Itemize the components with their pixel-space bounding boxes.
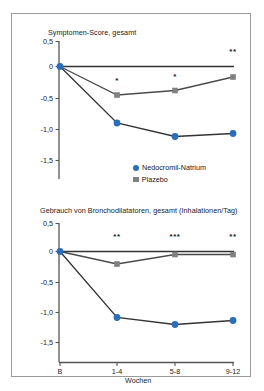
legend-label-plazebo: Plazebo <box>142 175 168 184</box>
legend-label-nedocromil: Nedocromil-Natrium <box>142 163 206 172</box>
legend-square-marker-icon <box>133 177 139 183</box>
ytick-label-top-1: 0 <box>31 62 53 71</box>
legend: Nedocromil-Natrium Plazebo <box>133 162 206 186</box>
ytick-label-bottom-2: -0,5 <box>31 278 53 287</box>
significance-marker-top-1: * <box>105 76 129 85</box>
legend-circle-marker-icon <box>133 165 139 171</box>
significance-marker-bottom-3: ** <box>221 232 245 241</box>
ytick-label-bottom-0: 0,5 <box>31 219 53 228</box>
ytick-label-top-4: -1,5 <box>31 156 53 165</box>
xtick-label-5-8: 5-8 <box>162 367 188 376</box>
ytick-label-top-2: -0,5 <box>31 94 53 103</box>
significance-marker-top-2: * <box>163 72 187 81</box>
significance-marker-bottom-2: *** <box>163 232 187 241</box>
chart-panel-bronchodilator-use: Gebrauch von Bronchodilatatoren, gesamt … <box>12 196 250 374</box>
significance-marker-bottom-1: ** <box>105 232 129 241</box>
xtick-label-1-4: 1-4 <box>104 367 130 376</box>
figure-frame: Symptomen-Score, gesamt <box>11 13 251 377</box>
chart-panel-symptom-score: Symptomen-Score, gesamt <box>12 16 250 194</box>
ytick-label-bottom-3: -1,0 <box>31 308 53 317</box>
xtick-label-9-12: 9-12 <box>220 367 246 376</box>
ytick-label-top-0: 0,5 <box>31 37 53 46</box>
ytick-label-bottom-1: 0 <box>31 247 53 256</box>
xtick-label-b: B <box>47 367 73 376</box>
xaxis-title: Wochen <box>125 376 151 385</box>
legend-item-plazebo: Plazebo <box>133 174 206 185</box>
ytick-label-top-3: -1,0 <box>31 125 53 134</box>
significance-marker-top-3: ** <box>221 47 245 56</box>
legend-item-nedocromil: Nedocromil-Natrium <box>133 162 206 173</box>
ytick-label-bottom-4: -1,5 <box>31 338 53 347</box>
